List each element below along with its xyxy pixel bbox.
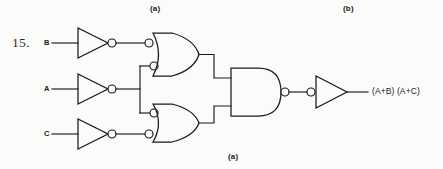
input-label-b: B (44, 39, 49, 47)
inverter-c-bubble-icon (108, 130, 116, 138)
and-gate-output-bubble-icon (281, 88, 289, 96)
input-label-c: C (44, 130, 49, 138)
output-inverter-bubble-icon (307, 88, 315, 96)
and-gate-body (231, 68, 281, 116)
figure-label-top-b: (b) (343, 5, 354, 13)
item-number: 15. (12, 36, 30, 50)
or-gate-top-body (153, 33, 199, 76)
inverter-c-body (78, 119, 108, 149)
output-inverter-body (316, 76, 347, 108)
or-top-input1-bubble-icon (145, 39, 153, 47)
figure-label-top-a: (a) (150, 5, 160, 13)
wire-or-bottom-to-and (199, 106, 231, 123)
figure-label-bottom-a: (a) (228, 153, 238, 161)
input-label-a: A (44, 85, 49, 93)
logic-circuit-diagram (0, 0, 443, 169)
inverter-b-bubble-icon (108, 39, 116, 47)
or-bottom-input2-bubble-icon (145, 130, 153, 138)
inverter-a-body (78, 74, 108, 104)
or-gate-bottom-body (153, 104, 199, 142)
inverter-b-body (78, 28, 108, 58)
inverter-a-bubble-icon (108, 85, 116, 93)
figure-canvas: 15. B A C (a) (b) (a) (A+B) (A+C) (0, 0, 443, 169)
output-expression-label: (A+B) (A+C) (372, 87, 420, 96)
wire-or-top-to-and (199, 55, 231, 79)
